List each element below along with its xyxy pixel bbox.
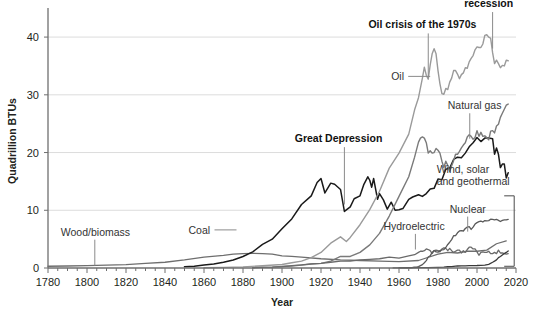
- series-label-wood-biomass: Wood/biomass: [61, 226, 130, 238]
- energy-consumption-line-chart: 1780180018201840186018801900192019401960…: [0, 0, 534, 314]
- series-line-wood-biomass: [48, 241, 506, 266]
- x-tick-label-2020: 2020: [504, 276, 528, 288]
- x-tick-label-1780: 1780: [36, 276, 60, 288]
- x-tick-label-1820: 1820: [114, 276, 138, 288]
- series-label-nuclear: Nuclear: [450, 203, 487, 215]
- y-tick-label-30: 30: [27, 89, 39, 101]
- x-axis-title: Year: [271, 296, 293, 308]
- x-tick-label-1940: 1940: [348, 276, 372, 288]
- series-label-natural-gas: Natural gas: [448, 99, 502, 111]
- x-tick-label-1920: 1920: [309, 276, 333, 288]
- series-label-coal: Coal: [189, 224, 211, 236]
- x-tick-label-1900: 1900: [270, 276, 294, 288]
- y-tick-label-40: 40: [27, 31, 39, 43]
- x-tick-label-1800: 1800: [75, 276, 99, 288]
- chart-container: 1780180018201840186018801900192019401960…: [0, 0, 534, 314]
- x-tick-label-1880: 1880: [231, 276, 255, 288]
- series-line-oil: [204, 35, 508, 268]
- y-tick-label-20: 20: [27, 147, 39, 159]
- series-label-oil: Oil: [391, 70, 404, 82]
- x-tick-label-1840: 1840: [153, 276, 177, 288]
- annotation-label-great-depression: Great Depression: [295, 132, 383, 144]
- x-tick-label-1860: 1860: [192, 276, 216, 288]
- annotation-label-oil-crisis: Oil crisis of the 1970s: [368, 18, 476, 30]
- leader-wind-solar-and-geothermal: [504, 196, 514, 266]
- y-tick-labels: 010203040: [27, 31, 39, 274]
- y-tick-label-0: 0: [33, 262, 39, 274]
- x-tick-label-1960: 1960: [387, 276, 411, 288]
- series-labels: Wood/biomassCoalOilNatural gasHydroelect…: [61, 70, 514, 266]
- annotation-label-great-recession: recession: [464, 0, 513, 9]
- x-tick-labels: 1780180018201840186018801900192019401960…: [36, 276, 528, 288]
- series-label-wind-solar-and-geothermal: Wind, solarand geothermal: [437, 163, 510, 187]
- y-axis-title: Quadrillion BTUs: [6, 98, 18, 184]
- series-line-hydroelectric: [253, 247, 508, 267]
- x-tick-label-1980: 1980: [426, 276, 450, 288]
- y-tick-label-10: 10: [27, 204, 39, 216]
- x-tick-label-2000: 2000: [465, 276, 489, 288]
- series-label-hydroelectric: Hydroelectric: [383, 220, 444, 232]
